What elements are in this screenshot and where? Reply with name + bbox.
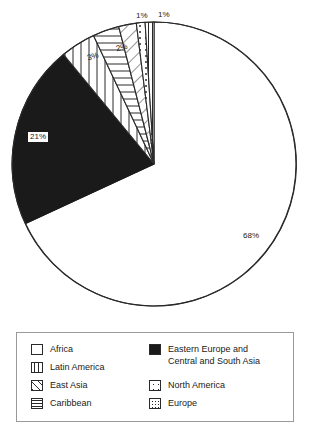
pie-label-latin-america: 1% <box>158 10 170 19</box>
legend-item-eastern-europe: Eastern Europe andCentral and South Asia <box>149 342 283 378</box>
pie-chart-svg <box>0 0 316 320</box>
legend-item-caribbean: Caribbean <box>31 396 149 414</box>
legend-label-eastern-europe-line1: Eastern Europe and <box>168 344 248 354</box>
legend-label-eastern-europe-line2: Central and South Asia <box>168 356 260 366</box>
pie-label-europe: 1% <box>136 11 148 20</box>
legend-column-right: Eastern Europe andCentral and South Asia… <box>149 342 283 414</box>
legend-label-europe: Europe <box>168 396 197 409</box>
legend-label-caribbean: Caribbean <box>50 396 92 409</box>
chart-legend: Africa Latin America East Asia Caribbean… <box>16 332 294 422</box>
legend-label-east-asia: East Asia <box>50 378 88 391</box>
pie-chart: 21% 68% 4% 3% 2% 1% 1% <box>0 0 316 320</box>
legend-item-east-asia: East Asia <box>31 378 149 396</box>
legend-item-north-america: North America <box>149 378 283 396</box>
pie-label-eastern-europe: 21% <box>27 131 49 143</box>
legend-item-europe: Europe <box>149 396 283 414</box>
legend-label-latin-america: Latin America <box>50 360 105 373</box>
legend-label-north-america: North America <box>168 378 225 391</box>
legend-swatch-africa-icon <box>31 344 43 355</box>
pie-label-africa: 68% <box>243 231 259 240</box>
legend-item-latin-america: Latin America <box>31 360 149 378</box>
legend-label-africa: Africa <box>50 342 73 355</box>
legend-swatch-caribbean-icon <box>31 398 43 409</box>
legend-item-africa: Africa <box>31 342 149 360</box>
legend-swatch-eastern-europe-icon <box>149 344 161 355</box>
legend-swatch-north-america-icon <box>149 380 161 391</box>
legend-column-left: Africa Latin America East Asia Caribbean <box>31 342 149 414</box>
legend-swatch-east-asia-icon <box>31 380 43 391</box>
legend-swatch-latin-america-icon <box>31 362 43 373</box>
legend-label-eastern-europe: Eastern Europe andCentral and South Asia <box>168 342 260 367</box>
legend-swatch-europe-icon <box>149 398 161 409</box>
